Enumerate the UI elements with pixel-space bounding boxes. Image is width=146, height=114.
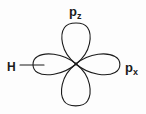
label-pz-base: p [69,4,77,19]
label-pz-subscript: z [77,11,82,21]
label-px-subscript: x [133,67,138,77]
nucleus-point [75,63,78,66]
px-left-lobe [33,54,76,75]
label-h-base: H [7,60,16,74]
label-px-base: p [125,60,133,75]
label-px: px [125,59,138,75]
label-pz: pz [69,3,81,19]
orbital-diagram-figure: pz px H [0,0,146,114]
label-h: H [7,58,16,74]
